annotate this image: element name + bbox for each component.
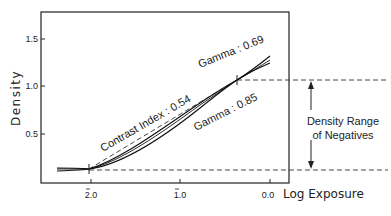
contrast-index-label: Contrast Index : 0.54: [98, 92, 192, 153]
y-tick-label: 1.0: [25, 81, 38, 91]
gamma-069-label: Gamma : 0.69: [196, 33, 265, 70]
x-tick-label: 0.0: [262, 190, 275, 200]
y-tick-label: 0.5: [25, 129, 38, 139]
y-axis-label: Density: [9, 70, 23, 126]
y-tick-label: 1.5: [25, 34, 38, 44]
x-tick-label: 1.0: [174, 190, 187, 200]
characteristic-curve-chart: 1.5 1.0 0.5 Density 2.0 1.0 0.0 Log Expo…: [0, 0, 391, 216]
x-axis: 2.0 1.0 0.0 Log Exposure: [85, 179, 364, 201]
y-axis: 1.5 1.0 0.5 Density: [9, 34, 45, 139]
gamma-085-label: Gamma : 0.85: [191, 90, 259, 132]
x-tick-label: 2.0: [85, 190, 98, 200]
x-axis-label: Log Exposure: [283, 187, 364, 201]
density-range-label-line2: of Negatives: [312, 129, 374, 141]
density-range-label-line1: Density Range: [307, 115, 379, 127]
